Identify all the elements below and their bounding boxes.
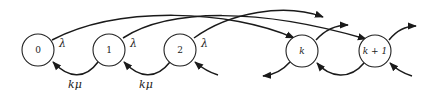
edge-1-to-0 — [53, 62, 98, 75]
node-k-plus-1: k + 1 — [359, 35, 391, 67]
lambda-label-1: λ — [129, 37, 137, 50]
edge-offscreen-to-2 — [195, 62, 218, 75]
markov-chain-diagram: 0 1 2 k k + 1 λ λ λ kμ kμ — [0, 0, 439, 94]
edge-2-to-1 — [124, 62, 170, 75]
node-2-label: 2 — [177, 45, 183, 55]
edge-k-plus-1-to-k — [317, 63, 364, 75]
edge-1-to-k-plus-1 — [123, 16, 366, 39]
node-1-label: 1 — [106, 45, 112, 55]
node-0-label: 0 — [35, 45, 41, 55]
node-k: k — [286, 35, 318, 67]
node-k-label: k — [299, 46, 304, 56]
kmu-label-1: kμ — [68, 78, 82, 91]
node-2: 2 — [164, 34, 196, 66]
edge-k-to-offscreen-left — [263, 62, 290, 76]
lambda-label-0: λ — [58, 37, 66, 50]
lambda-label-2: λ — [200, 37, 208, 50]
edge-offscreen-to-k-plus-1 — [390, 63, 412, 76]
node-k-plus-1-label: k + 1 — [363, 46, 387, 56]
node-0: 0 — [22, 34, 54, 66]
node-1: 1 — [93, 34, 125, 66]
edge-k-plus-1-to-offscreen — [389, 26, 416, 40]
kmu-label-2: kμ — [139, 78, 153, 91]
